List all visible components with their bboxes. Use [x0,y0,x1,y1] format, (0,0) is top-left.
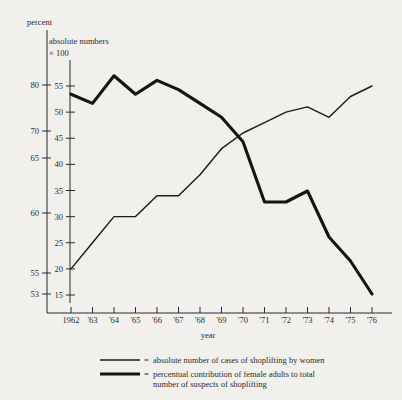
x-tick-label: '66 [152,315,162,325]
absolute-tick-label: 20 [55,264,64,274]
absolute-tick-label: 40 [55,159,64,169]
absolute-tick-label: 55 [55,81,64,91]
legend-label-absolute-numbers: absolute number of cases of shoplifting … [153,355,325,365]
absolute-tick-label: 35 [55,186,64,196]
x-axis-ticks: 1962'63'64'65'66'67'68'69'70'71'72'73'74… [63,307,378,325]
x-tick-label: 1962 [63,315,80,325]
x-tick-label: '76 [367,315,377,325]
absolute-tick-label: 25 [55,238,64,248]
percent-tick-label: 65 [31,153,40,163]
absolute-tick-label: 50 [55,107,64,117]
legend-equals-thick: = [144,369,149,379]
x-tick-label: '63 [87,315,97,325]
absolute-tick-label: 45 [55,133,64,143]
x-tick-label: '72 [281,315,291,325]
percent-axis-ticks: 807065605553 [31,80,52,299]
legend-equals-thin: = [144,355,149,365]
percent-tick-label: 80 [31,80,40,90]
x-tick-label: '73 [302,315,312,325]
x-tick-label: '67 [173,315,183,325]
percent-tick-label: 60 [31,208,40,218]
x-tick-label: '75 [345,315,355,325]
chart-container: percent absolute numbers × 100 807065605… [0,0,402,400]
x-tick-label: '65 [130,315,140,325]
absolute-axis-title-multiplier: × 100 [49,48,69,58]
x-axis-spine [47,303,392,313]
absolute-axis-title: absolute numbers [49,36,109,46]
x-tick-label: '69 [216,315,226,325]
percent-tick-label: 53 [31,289,40,299]
series-percent-contribution-line [71,76,372,294]
x-axis-label: year [201,330,216,340]
series-absolute-numbers-line [71,86,372,269]
chart-legend: = absolute number of cases of shopliftin… [100,355,325,389]
x-tick-label: '70 [238,315,248,325]
x-tick-label: '68 [195,315,205,325]
percent-tick-label: 55 [31,268,40,278]
x-tick-label: '74 [324,315,335,325]
absolute-tick-label: 15 [55,290,64,300]
percent-tick-label: 70 [31,126,40,136]
absolute-tick-label: 30 [55,212,64,222]
legend-label-percent-contribution-1: percentual contribution of female adults… [153,369,316,379]
percent-axis-title: percent [27,17,53,27]
x-tick-label: '64 [109,315,120,325]
legend-label-percent-contribution-2: number of suspects of shoplifting [153,379,268,389]
x-tick-label: '71 [259,315,269,325]
line-chart: percent absolute numbers × 100 807065605… [0,0,402,400]
